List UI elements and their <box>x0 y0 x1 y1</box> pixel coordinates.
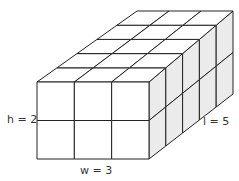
front-cube-face <box>37 82 74 121</box>
front-cube-face <box>112 121 149 160</box>
front-cube-face <box>112 82 149 121</box>
height-label: h = 2 <box>7 114 37 126</box>
width-label: w = 3 <box>80 165 112 177</box>
front-cube-face <box>74 121 111 160</box>
length-label: l = 5 <box>203 116 229 128</box>
front-cube-face <box>37 121 74 160</box>
cube-prism-diagram <box>0 0 239 181</box>
front-cube-face <box>74 82 111 121</box>
front-face <box>37 82 149 159</box>
